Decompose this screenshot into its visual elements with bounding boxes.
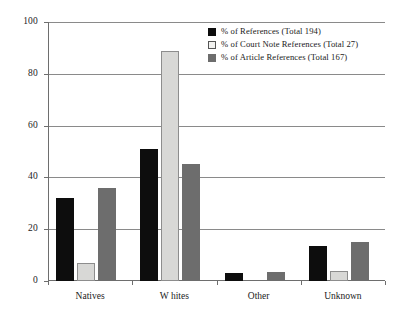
legend-item: % of Article References (Total 167) [208,52,358,64]
x-tick-label: Other [217,292,301,302]
bar [330,271,348,281]
bar [225,273,243,281]
legend-label: % of Article References (Total 167) [221,53,347,62]
bar-chart: 020406080100 NativesW hitesOtherUnknown … [0,0,404,309]
y-tick-label: 0 [0,276,38,286]
legend-label: % of References (Total 194) [221,27,321,36]
y-tick-label: 60 [0,121,38,131]
x-tick-label: Unknown [301,292,385,302]
x-tick-mark [301,281,302,285]
x-tick-mark [132,281,133,285]
bar [140,149,158,281]
chart-legend: % of References (Total 194)% of Court No… [208,26,358,65]
legend-label: % of Court Note References (Total 27) [221,40,358,49]
legend-swatch-icon [208,28,216,36]
bar [77,263,95,281]
y-axis: 020406080100 [0,0,48,309]
legend-item: % of References (Total 194) [208,26,358,38]
y-tick-label: 80 [0,69,38,79]
x-tick-mark [217,281,218,285]
x-tick-label: W hites [132,292,216,302]
bar [351,242,369,281]
bar [161,51,179,282]
legend-swatch-icon [208,41,216,49]
y-tick-label: 20 [0,224,38,234]
bar [56,198,74,281]
bar [309,246,327,281]
y-tick-label: 100 [0,17,38,27]
legend-item: % of Court Note References (Total 27) [208,39,358,51]
bar [182,164,200,281]
x-tick-mark [385,281,386,285]
legend-swatch-icon [208,54,216,62]
y-tick-label: 40 [0,172,38,182]
x-axis: NativesW hitesOtherUnknown [48,281,385,309]
bar [98,188,116,281]
x-tick-label: Natives [48,292,132,302]
bar [267,272,285,281]
x-tick-mark [48,281,49,285]
